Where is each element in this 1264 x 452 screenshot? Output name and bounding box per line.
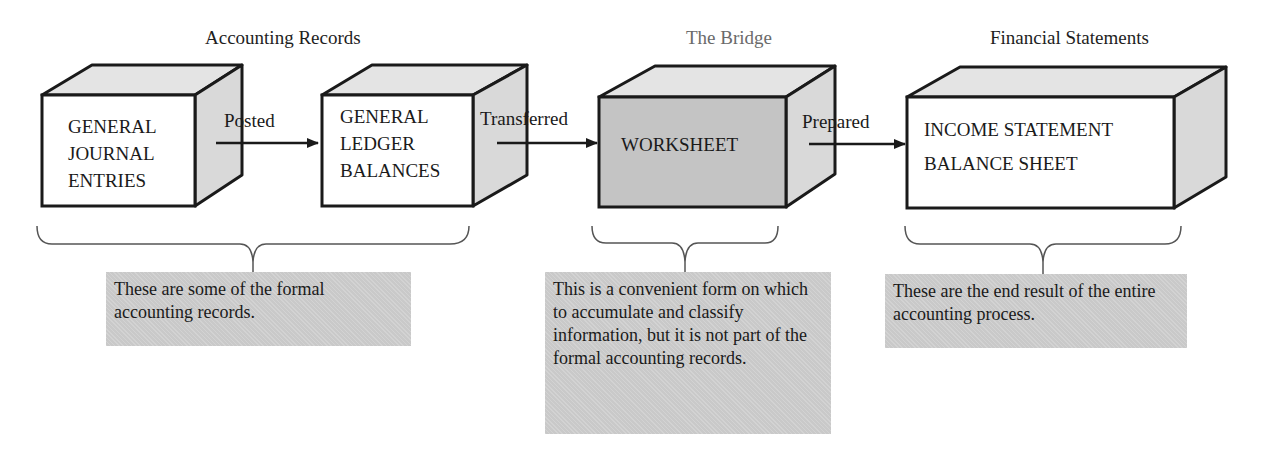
box-label-line: BALANCES <box>340 157 440 184</box>
box-label-line: ENTRIES <box>68 167 157 194</box>
note-financial-statements: These are the end result of the entire a… <box>885 274 1187 348</box>
note-worksheet: This is a convenient form on which to ac… <box>545 272 831 434</box>
box-label-line: INCOME STATEMENT <box>924 113 1113 147</box>
box-label-line: GENERAL <box>340 103 440 130</box>
arrow-label-transferred: Transferred <box>480 108 568 130</box>
box-label-line: LEDGER <box>340 130 440 157</box>
box-label-line: JOURNAL <box>68 140 157 167</box>
brace-accounting-records <box>37 226 469 262</box>
box-label-line: GENERAL <box>68 113 157 140</box>
arrow-label-posted: Posted <box>224 110 275 132</box>
section-title-financial-statements: Financial Statements <box>990 27 1149 49</box>
box-label-financial-statements: INCOME STATEMENT BALANCE SHEET <box>924 113 1113 181</box>
box-top-face <box>907 67 1226 97</box>
box-label-line: WORKSHEET <box>621 131 738 158</box>
box-label-general-ledger: GENERAL LEDGER BALANCES <box>340 103 440 184</box>
brace-financial-statements <box>905 226 1181 262</box>
arrow-label-prepared: Prepared <box>802 111 870 133</box>
brace-bridge <box>592 226 778 262</box>
box-label-worksheet: WORKSHEET <box>621 131 738 158</box>
section-title-accounting-records: Accounting Records <box>205 27 361 49</box>
note-accounting-records: These are some of the formal accounting … <box>106 272 411 346</box>
section-title-the-bridge: The Bridge <box>686 27 772 49</box>
box-label-general-journal: GENERAL JOURNAL ENTRIES <box>68 113 157 194</box>
box-label-line: BALANCE SHEET <box>924 147 1113 181</box>
